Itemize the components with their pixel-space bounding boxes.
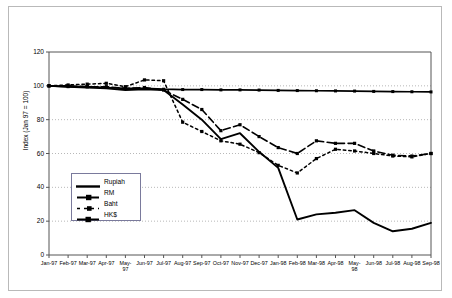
chart-legend: Rupiah RM Baht [71,173,141,221]
series-marker [219,139,222,142]
series-marker [124,87,127,90]
series-marker [391,90,394,93]
legend-item-rupiah: Rupiah [72,176,140,187]
series-marker [162,88,165,91]
series-marker [277,89,280,92]
series-marker [258,89,261,92]
series-marker [258,151,261,154]
series-line-baht [49,80,431,173]
y-axis-tick-label: 20 [22,217,44,224]
series-marker [143,87,146,90]
series-marker [277,146,280,149]
series-marker [296,152,299,155]
series-marker [239,88,242,91]
series-marker [430,90,433,93]
series-marker [353,90,356,93]
series-marker [315,89,318,92]
series-marker [315,157,318,160]
series-marker [200,130,203,133]
y-axis-tick-label: 0 [22,251,44,258]
series-marker [391,154,394,157]
legend-label-rm: RM [104,189,114,196]
series-marker [429,152,432,155]
series-marker [296,89,299,92]
series-marker [334,89,337,92]
series-marker [181,88,184,91]
legend-item-rm: RM [72,187,140,198]
y-axis-tick-label: 80 [22,116,44,123]
series-marker [86,85,89,88]
series-marker [143,78,146,81]
series-marker [200,108,203,111]
chart-frame: Index (Jan 97 = 100) Rupiah RM [8,6,442,291]
series-marker [181,121,184,124]
legend-label-rupiah: Rupiah [104,178,125,185]
series-marker [162,79,165,82]
y-axis-tick-label: 120 [22,48,44,55]
y-axis-tick-label: 100 [22,82,44,89]
series-marker [277,164,280,167]
x-axis-tick-label: Sep-98 [416,260,446,266]
legend-item-hkd: HK$ [72,209,140,220]
series-marker [353,142,356,145]
series-marker [48,84,51,87]
series-marker [200,88,203,91]
series-marker [410,90,413,93]
legend-key-baht [75,199,101,208]
legend-key-rupiah [75,177,101,186]
series-marker [67,85,70,88]
series-marker [372,90,375,93]
series-marker [181,98,184,101]
series-marker [353,149,356,152]
legend-item-baht: Baht [72,198,140,209]
legend-key-rm [75,188,101,197]
y-axis-tick-label: 60 [22,150,44,157]
series-marker [105,82,108,85]
series-marker [258,135,261,138]
series-marker [238,123,241,126]
legend-key-hkd [75,210,101,219]
series-marker [105,86,108,89]
series-marker [334,142,337,145]
series-marker [296,171,299,174]
series-marker [238,143,241,146]
series-marker [219,129,222,132]
legend-label-baht: Baht [104,200,118,207]
legend-label-hkd: HK$ [104,211,117,218]
series-marker [334,148,337,151]
line-chart-plot [9,7,441,290]
series-marker [372,152,375,155]
series-marker [219,88,222,91]
y-axis-tick-label: 40 [22,183,44,190]
series-marker [410,155,413,158]
series-marker [315,139,318,142]
